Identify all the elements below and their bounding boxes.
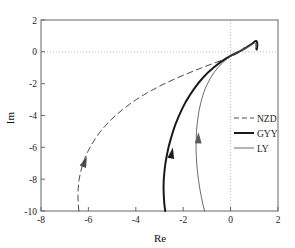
x-tick-label: 0 — [228, 215, 233, 225]
series-curve-nzd — [78, 47, 244, 211]
x-tick-label: -4 — [132, 215, 140, 225]
arrowhead-nzd — [80, 157, 87, 168]
legend-label-nzd: NZD — [257, 114, 277, 124]
y-tick-label: -10 — [24, 207, 37, 217]
x-axis-title: Re — [154, 232, 166, 244]
series-curve-gyy — [164, 41, 258, 211]
x-tick-label: -6 — [84, 215, 92, 225]
y-tick-label: -4 — [29, 111, 37, 121]
direction-arrowheads — [80, 132, 202, 168]
y-axis-title: Im — [4, 111, 16, 124]
legend-label-ly: LY — [257, 144, 269, 154]
y-tick-label: -6 — [29, 143, 37, 153]
y-tick-label: 2 — [32, 16, 37, 26]
y-tick-label: -8 — [29, 175, 37, 185]
x-tick-label: -2 — [179, 215, 187, 225]
x-tick-label: -8 — [37, 215, 45, 225]
nyquist-plot-figure: -8-6-4-202 20-2-4-6-8-10 Re Im NZDGYYLY — [0, 0, 295, 248]
chart-legend: NZDGYYLY — [234, 114, 278, 154]
y-axis-tick-labels: 20-2-4-6-8-10 — [24, 16, 37, 217]
legend-label-gyy: GYY — [257, 129, 278, 139]
y-tick-label: -2 — [29, 79, 37, 89]
chart-canvas: -8-6-4-202 20-2-4-6-8-10 Re Im NZDGYYLY — [0, 0, 295, 248]
series-curve-ly — [196, 43, 256, 211]
x-axis-tick-labels: -8-6-4-202 — [37, 215, 281, 225]
x-axis-ticks — [41, 207, 278, 211]
y-tick-label: 0 — [32, 47, 37, 57]
x-tick-label: 2 — [276, 215, 281, 225]
arrowhead-ly — [195, 132, 202, 143]
y-axis-ticks — [41, 20, 45, 211]
